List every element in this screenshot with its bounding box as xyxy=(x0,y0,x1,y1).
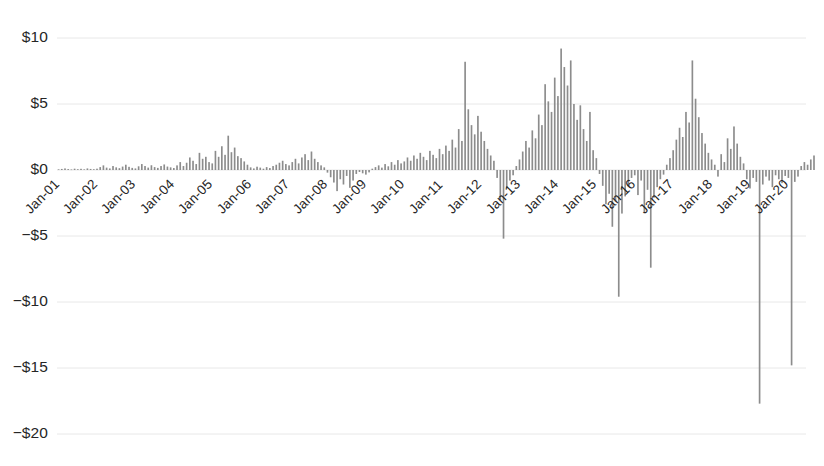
y-axis-tick-label: $5 xyxy=(0,94,48,112)
bar xyxy=(676,140,678,170)
bar xyxy=(432,155,434,170)
bar xyxy=(711,159,713,170)
bar xyxy=(743,163,745,170)
bar xyxy=(327,170,329,173)
bar xyxy=(131,168,133,170)
bar xyxy=(221,146,223,170)
bar xyxy=(231,152,233,170)
bar xyxy=(704,144,706,170)
bar xyxy=(602,170,604,186)
bar xyxy=(234,148,236,170)
bar xyxy=(788,170,790,178)
bars-group xyxy=(58,49,815,404)
bar xyxy=(413,155,415,170)
bar xyxy=(554,78,556,170)
bar xyxy=(240,158,242,170)
bar xyxy=(794,170,796,182)
bar xyxy=(288,165,290,170)
bar xyxy=(496,170,498,178)
bar xyxy=(730,149,732,170)
y-axis-tick-label: −$15 xyxy=(0,358,48,376)
bar xyxy=(103,165,105,170)
bar xyxy=(90,169,92,170)
bar xyxy=(660,170,662,179)
bar xyxy=(637,170,639,195)
bar xyxy=(397,160,399,170)
bar xyxy=(435,158,437,170)
bar xyxy=(387,166,389,170)
bar xyxy=(669,158,671,170)
bar xyxy=(640,170,642,181)
bar xyxy=(634,170,636,175)
bar xyxy=(243,161,245,170)
bar xyxy=(304,154,306,170)
bar xyxy=(403,161,405,170)
bar xyxy=(147,168,149,170)
bar xyxy=(596,158,598,170)
bar xyxy=(647,170,649,190)
bar xyxy=(323,167,325,170)
bar xyxy=(333,170,335,183)
bar xyxy=(567,86,569,170)
bar xyxy=(538,115,540,170)
bar xyxy=(692,60,694,170)
bar xyxy=(564,67,566,170)
bar xyxy=(330,170,332,177)
bar xyxy=(570,60,572,170)
bar xyxy=(477,116,479,170)
bar xyxy=(522,152,524,170)
bar xyxy=(548,101,550,170)
bar xyxy=(666,165,668,170)
plot-area xyxy=(0,0,824,466)
bar xyxy=(586,141,588,170)
bar xyxy=(71,169,73,170)
bar xyxy=(448,151,450,170)
bar xyxy=(765,170,767,177)
bar xyxy=(320,165,322,170)
bar xyxy=(307,160,309,170)
bar xyxy=(583,129,585,170)
y-axis-tick-label: −$20 xyxy=(0,424,48,442)
bar xyxy=(804,162,806,170)
bar xyxy=(205,157,207,170)
bar xyxy=(317,162,319,170)
bar xyxy=(714,165,716,170)
bar xyxy=(467,109,469,170)
bar xyxy=(87,168,89,170)
bar xyxy=(109,168,111,170)
bar xyxy=(720,154,722,170)
bar xyxy=(186,163,188,170)
bar xyxy=(679,128,681,170)
bar xyxy=(429,151,431,170)
bar xyxy=(727,138,729,170)
bar xyxy=(208,162,210,170)
bar xyxy=(708,153,710,170)
bar xyxy=(122,167,124,170)
bar xyxy=(112,166,114,170)
bar xyxy=(339,170,341,179)
bar xyxy=(512,170,514,175)
bar xyxy=(423,157,425,170)
bar xyxy=(58,169,60,170)
bar xyxy=(740,157,742,170)
bar xyxy=(311,152,313,170)
bar xyxy=(487,149,489,170)
bar xyxy=(365,170,367,175)
bar xyxy=(589,112,591,170)
bar xyxy=(80,169,82,170)
bar xyxy=(416,159,418,170)
y-axis-tick-label: −$10 xyxy=(0,292,48,310)
bar xyxy=(573,104,575,170)
bar xyxy=(688,122,690,170)
bar xyxy=(282,161,284,170)
bar xyxy=(179,162,181,170)
bar xyxy=(291,162,293,170)
bar xyxy=(144,166,146,170)
bar xyxy=(247,165,249,170)
bar xyxy=(442,154,444,170)
bar xyxy=(663,170,665,175)
bar xyxy=(343,170,345,185)
bar xyxy=(426,160,428,170)
bar xyxy=(275,165,277,170)
bar xyxy=(224,155,226,170)
